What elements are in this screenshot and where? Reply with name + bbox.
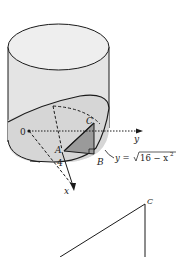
x-axis-label: x bbox=[64, 186, 69, 196]
point-a-label: A bbox=[54, 145, 62, 155]
equation-radicand: 16 − x bbox=[140, 153, 168, 163]
equation-prefix: y = bbox=[114, 153, 132, 163]
point-b-label: B bbox=[96, 157, 104, 167]
y-axis-arrow-icon bbox=[136, 129, 143, 134]
enlarged-point-c-label: C bbox=[147, 197, 153, 206]
radius-label: 4 bbox=[57, 158, 63, 168]
cylinder-wedge-diagram: 0 C A B 4 x y y = 16 − x 2 C bbox=[0, 0, 176, 257]
cylinder-top bbox=[8, 24, 109, 70]
curve-equation: y = 16 − x 2 bbox=[114, 151, 176, 163]
origin-label: 0 bbox=[20, 127, 26, 137]
y-axis-label: y bbox=[133, 134, 140, 144]
enlarged-hypotenuse bbox=[60, 204, 145, 257]
x-axis-arrow-icon bbox=[70, 183, 76, 191]
point-c-label: C bbox=[86, 116, 93, 126]
equation-exponent: 2 bbox=[170, 151, 174, 157]
curve-leader-line bbox=[105, 150, 114, 158]
enlarged-triangle: C bbox=[60, 197, 153, 257]
